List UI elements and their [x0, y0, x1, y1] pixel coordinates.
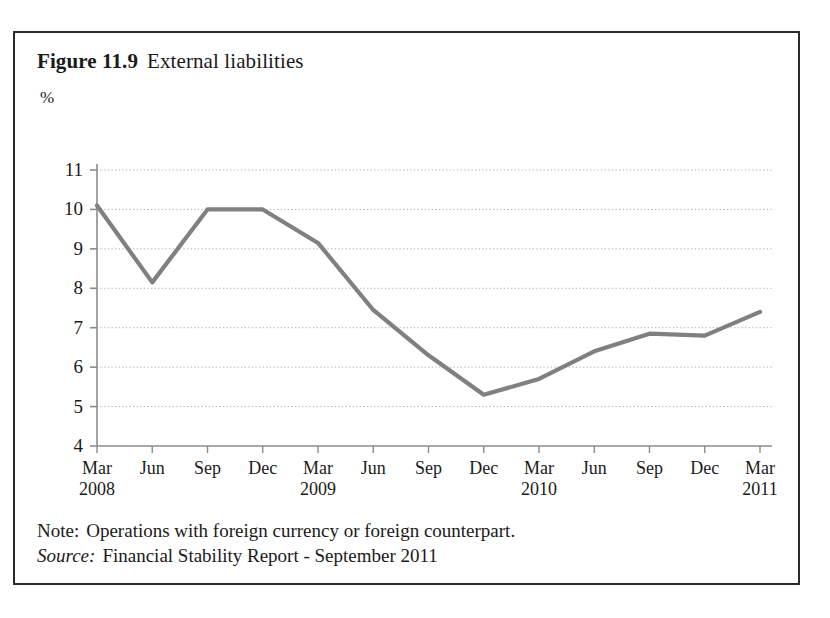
y-tick-4: 4 — [49, 436, 83, 455]
y-tick-10: 10 — [49, 199, 83, 218]
x-tick-year: 2008 — [67, 479, 127, 500]
x-tick-month: Sep — [399, 458, 459, 479]
x-tick-month: Mar — [288, 458, 348, 479]
note-line: Note:Operations with foreign currency or… — [37, 518, 515, 543]
x-tick-year: 2010 — [509, 479, 569, 500]
x-tick-sep-2010: Sep — [620, 458, 680, 479]
x-tick-month: Dec — [675, 458, 735, 479]
x-tick-month: Jun — [564, 458, 624, 479]
x-tick-jun-2008: Jun — [122, 458, 182, 479]
x-tick-dec-2010: Dec — [675, 458, 735, 479]
x-tick-month: Mar — [67, 458, 127, 479]
source-line: Source:Financial Stability Report - Sept… — [37, 543, 515, 568]
figure-panel: Figure 11.9External liabilities % 111098… — [13, 31, 800, 585]
y-tick-8: 8 — [49, 278, 83, 297]
source-text: Financial Stability Report - September 2… — [102, 545, 437, 566]
x-tick-mar-2008: Mar2008 — [67, 458, 127, 500]
x-tick-year: 2011 — [730, 479, 790, 500]
x-tick-jun-2010: Jun — [564, 458, 624, 479]
x-tick-year: 2009 — [288, 479, 348, 500]
x-tick-month: Jun — [343, 458, 403, 479]
x-tick-month: Mar — [730, 458, 790, 479]
y-tick-5: 5 — [49, 397, 83, 416]
x-tick-month: Sep — [178, 458, 238, 479]
y-tick-11: 11 — [49, 160, 83, 179]
y-tick-9: 9 — [49, 239, 83, 258]
x-tick-month: Dec — [454, 458, 514, 479]
x-tick-month: Jun — [122, 458, 182, 479]
note-text: Operations with foreign currency or fore… — [86, 520, 515, 541]
source-label: Source: — [37, 545, 95, 566]
x-tick-dec-2009: Dec — [454, 458, 514, 479]
x-tick-sep-2009: Sep — [399, 458, 459, 479]
note-label: Note: — [37, 520, 79, 541]
x-tick-mar-2009: Mar2009 — [288, 458, 348, 500]
x-tick-month: Sep — [620, 458, 680, 479]
chart-plot-area: 1110987654 Mar2008JunSepDecMar2009JunSep… — [15, 33, 802, 587]
x-tick-month: Mar — [509, 458, 569, 479]
x-tick-dec-2008: Dec — [233, 458, 293, 479]
y-tick-7: 7 — [49, 318, 83, 337]
x-tick-jun-2009: Jun — [343, 458, 403, 479]
x-tick-mar-2011: Mar2011 — [730, 458, 790, 500]
line-chart-svg — [15, 33, 802, 587]
figure-footnotes: Note:Operations with foreign currency or… — [37, 518, 515, 568]
x-tick-mar-2010: Mar2010 — [509, 458, 569, 500]
y-tick-6: 6 — [49, 357, 83, 376]
x-tick-month: Dec — [233, 458, 293, 479]
x-tick-sep-2008: Sep — [178, 458, 238, 479]
